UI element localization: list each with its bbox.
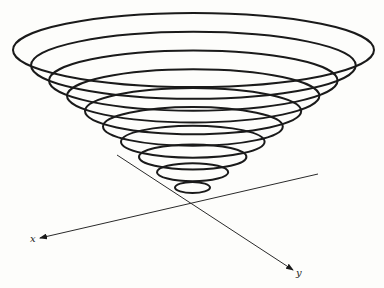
y-axis-label: y bbox=[295, 267, 302, 278]
y-axis-line bbox=[117, 155, 293, 270]
coordinate-axes: x y bbox=[30, 155, 318, 278]
contour-rings bbox=[13, 13, 374, 193]
contour-ellipse bbox=[175, 182, 210, 193]
cone-contour-diagram: x y bbox=[0, 0, 384, 288]
contour-ellipse bbox=[157, 163, 228, 181]
contour-ellipse bbox=[67, 69, 319, 122]
x-axis-label: x bbox=[30, 233, 36, 244]
